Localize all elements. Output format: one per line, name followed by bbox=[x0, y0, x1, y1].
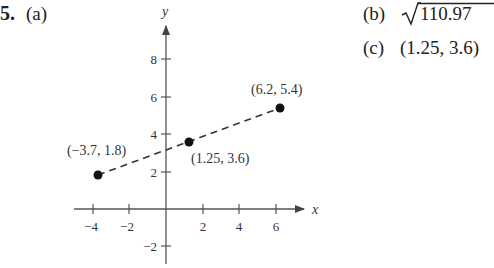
y-axis-label: y bbox=[160, 4, 169, 19]
coordinate-plot: x y −4 −2 2 4 6 −2 2 4 6 8 (−3.7, 1.8) (… bbox=[0, 0, 494, 268]
svg-text:4: 4 bbox=[236, 219, 243, 234]
svg-text:−2: −2 bbox=[120, 219, 134, 234]
point-midpoint-label: (1.25, 3.6) bbox=[191, 151, 250, 167]
point-b bbox=[276, 104, 285, 113]
svg-text:4: 4 bbox=[151, 127, 158, 142]
x-axis-label: x bbox=[311, 202, 319, 217]
svg-text:2: 2 bbox=[151, 165, 158, 180]
svg-text:−2: −2 bbox=[143, 239, 157, 254]
svg-text:6: 6 bbox=[273, 219, 280, 234]
svg-text:6: 6 bbox=[151, 90, 158, 105]
point-b-label: (6.2, 5.4) bbox=[251, 82, 303, 98]
svg-text:2: 2 bbox=[200, 219, 207, 234]
x-tick-labels: −4 −2 2 4 6 bbox=[84, 219, 280, 234]
svg-text:−4: −4 bbox=[84, 219, 98, 234]
point-midpoint bbox=[185, 138, 194, 147]
point-a bbox=[94, 171, 103, 180]
point-a-label: (−3.7, 1.8) bbox=[67, 143, 127, 159]
svg-text:8: 8 bbox=[151, 52, 158, 67]
y-tick-labels: −2 2 4 6 8 bbox=[143, 52, 157, 254]
